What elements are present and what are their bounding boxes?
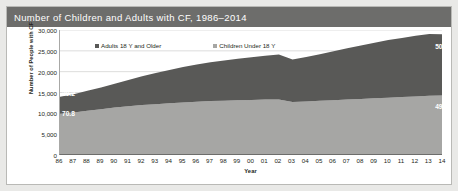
data-label-children-start: 70.8: [62, 110, 75, 117]
chart-title: Number of Children and Adults with CF, 1…: [7, 12, 247, 23]
x-axis-tick-label: 99: [233, 157, 240, 164]
x-axis-tick-label: 06: [329, 157, 336, 164]
x-axis-tick-label: 04: [302, 157, 309, 164]
x-axis-tick-label: 11: [398, 157, 404, 164]
legend-label-children: Children Under 18 Y: [219, 42, 275, 49]
x-axis-tick-label: 05: [315, 157, 322, 164]
x-axis-tick-label: 95: [179, 157, 186, 164]
x-axis-tick-label: 91: [124, 157, 131, 164]
x-axis-tick-label: 88: [83, 157, 90, 164]
x-axis-tick-label: 03: [288, 157, 295, 164]
y-axis-tick-label: 20,000: [38, 68, 57, 75]
y-axis-tick-label: 30,000: [38, 27, 57, 34]
x-axis-tick-label: 13: [425, 157, 432, 164]
x-axis-tick-label: 97: [206, 157, 213, 164]
x-axis-tick-label: 07: [343, 157, 350, 164]
legend-label-adults: Adults 18 Y and Older: [101, 42, 161, 49]
chart-figure: Number of Children and Adults with CF, 1…: [0, 0, 458, 191]
data-label-adults-start: 29.2: [62, 90, 75, 97]
y-axis-tick-label: 5,000: [42, 131, 57, 138]
x-axis-tick-label: 94: [165, 157, 172, 164]
legend-item-children: Children Under 18 Y: [213, 42, 275, 49]
x-axis-tick-label: 98: [220, 157, 227, 164]
y-axis-tick-label: 15,000: [38, 89, 57, 96]
x-axis-tick-label: 96: [192, 157, 199, 164]
x-axis-tick-label: 87: [69, 157, 76, 164]
data-label-adults-end: 50.7: [435, 43, 448, 50]
y-axis-tick-label: 25,000: [38, 47, 57, 54]
y-axis-tick-label: 10,000: [38, 110, 57, 117]
x-axis-title: Year: [59, 168, 442, 174]
x-axis-tick-label: 93: [151, 157, 158, 164]
legend-swatch-icon-children: [213, 44, 217, 48]
legend-swatch-icon-adults: [95, 44, 99, 48]
y-axis-tick-labels: 05,00010,00015,00020,00025,00030,000: [23, 27, 57, 155]
legend-item-adults: Adults 18 Y and Older: [95, 42, 161, 49]
x-axis-tick-label: 00: [247, 157, 254, 164]
plot-container: Number of People with CF 05,00010,00015,…: [7, 27, 451, 184]
x-axis-tick-label: 08: [356, 157, 363, 164]
x-axis-tick-label: 12: [411, 157, 418, 164]
x-axis-tick-label: 09: [370, 157, 377, 164]
x-axis-tick-label: 10: [384, 157, 391, 164]
data-label-children-end: 49.3: [435, 103, 448, 110]
chart-title-bar: Number of Children and Adults with CF, 1…: [7, 7, 451, 27]
x-axis-tick-label: 89: [97, 157, 104, 164]
x-axis-tick-label: 02: [274, 157, 281, 164]
x-axis-tick-label: 86: [56, 157, 63, 164]
x-axis-tick-label: 14: [439, 157, 446, 164]
x-axis-tick-label: 92: [138, 157, 145, 164]
chart-legend: Adults 18 Y and Older Children Under 18 …: [95, 42, 275, 49]
x-axis-tick-label: 90: [110, 157, 117, 164]
x-axis-tick-label: 01: [261, 157, 268, 164]
